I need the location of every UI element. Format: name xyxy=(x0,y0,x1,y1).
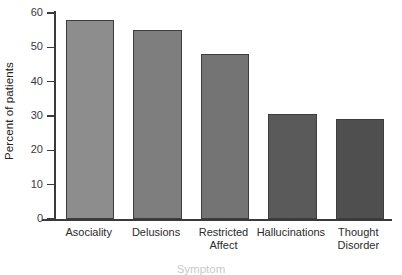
y-axis-tick xyxy=(47,184,55,185)
x-axis-label-asociality: Asociality xyxy=(51,226,126,239)
y-axis-tick xyxy=(47,150,55,151)
x-axis-label-restricted-affect: RestrictedAffect xyxy=(186,226,261,251)
bar-delusions xyxy=(133,30,182,219)
y-axis-tick xyxy=(47,47,55,48)
x-axis-title: Symptom xyxy=(0,263,402,275)
y-axis-tick-label: 40 xyxy=(3,75,43,87)
bar-hallucinations xyxy=(268,114,317,219)
bar-thought-disorder xyxy=(336,119,385,219)
y-axis-tick-label: 10 xyxy=(3,178,43,190)
x-axis-label-hallucinations: Hallucinations xyxy=(253,226,328,239)
x-axis-label-line: Asociality xyxy=(51,226,126,239)
y-axis-tick-label: 0 xyxy=(3,212,43,224)
y-axis-tick-label: 50 xyxy=(3,40,43,52)
x-axis-label-delusions: Delusions xyxy=(118,226,193,239)
y-axis-tick-label: 20 xyxy=(3,143,43,155)
y-axis-tick xyxy=(47,12,55,13)
y-axis-tick-label: 60 xyxy=(3,6,43,18)
plot-area xyxy=(55,13,392,219)
y-axis-tick xyxy=(47,115,55,116)
x-axis-label-thought-disorder: ThoughtDisorder xyxy=(321,226,396,251)
x-axis-label-line: Restricted xyxy=(186,226,261,239)
x-axis-label-line: Disorder xyxy=(321,239,396,252)
y-axis-tick xyxy=(47,218,55,219)
bar-restricted-affect xyxy=(201,54,250,219)
bar-asociality xyxy=(66,20,115,219)
x-axis-line xyxy=(42,219,392,221)
x-axis-label-line: Affect xyxy=(186,239,261,252)
x-axis-label-line: Hallucinations xyxy=(253,226,328,239)
y-axis-tick xyxy=(47,81,55,82)
x-axis-label-line: Thought xyxy=(321,226,396,239)
x-axis-label-line: Delusions xyxy=(118,226,193,239)
y-axis-tick-label: 30 xyxy=(3,109,43,121)
